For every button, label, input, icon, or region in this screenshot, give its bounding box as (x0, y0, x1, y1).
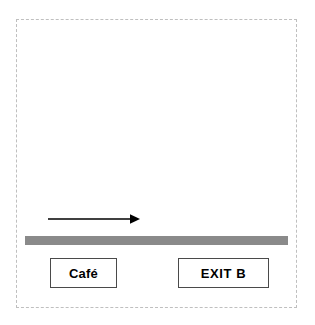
direction-arrow-icon (44, 210, 144, 228)
sign-exit-b-label: EXIT B (201, 267, 247, 280)
sign-exit-b[interactable]: EXIT B (178, 258, 269, 288)
diagram-canvas: Café EXIT B (0, 0, 315, 325)
sign-cafe-label: Café (69, 267, 98, 280)
sign-cafe[interactable]: Café (50, 258, 117, 288)
corridor-band (25, 236, 288, 245)
